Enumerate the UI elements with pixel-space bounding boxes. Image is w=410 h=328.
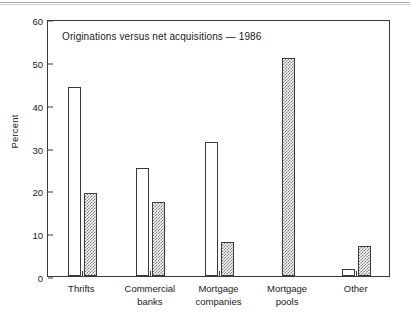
bar-net-acquisitions: [358, 246, 371, 276]
y-tick-label: 10: [32, 230, 43, 241]
y-tick-label: 50: [32, 58, 43, 69]
y-tick-label: 40: [32, 101, 43, 112]
x-tick-mark: [150, 271, 151, 276]
y-tick-label: 60: [32, 16, 43, 27]
bar-net-acquisitions: [282, 58, 295, 276]
bar-originations: [342, 269, 355, 276]
x-axis-label-line: pools: [240, 295, 334, 308]
bar-chart-figure: Percent Originations versus net acquisit…: [0, 0, 410, 328]
x-tick-mark: [219, 271, 220, 276]
chart-title: Originations versus net acquisitions — 1…: [62, 31, 261, 42]
y-tick-label: 20: [32, 187, 43, 198]
bar-originations: [205, 142, 218, 276]
bar-net-acquisitions: [221, 242, 234, 276]
y-tick-mark: [48, 106, 53, 107]
y-tick-mark: [48, 149, 53, 150]
x-axis-label: Other: [309, 282, 403, 295]
bar-originations: [68, 87, 81, 276]
y-tick-label: 30: [32, 144, 43, 155]
y-tick-mark: [48, 192, 53, 193]
y-tick-mark: [48, 63, 53, 64]
y-tick-mark: [48, 278, 53, 279]
y-axis-title: Percent: [9, 102, 20, 162]
y-tick-mark: [48, 21, 53, 22]
x-tick-mark: [356, 271, 357, 276]
x-axis-label-line: Other: [309, 282, 403, 295]
bar-originations: [136, 168, 149, 276]
bar-net-acquisitions: [152, 202, 165, 276]
bar-net-acquisitions: [84, 193, 97, 276]
y-tick-mark: [48, 235, 53, 236]
plot-area: Originations versus net acquisitions — 1…: [47, 20, 390, 277]
